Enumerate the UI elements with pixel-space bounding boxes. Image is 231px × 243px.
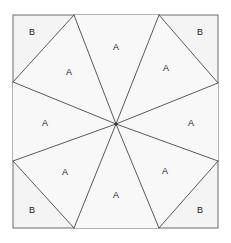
- geometry-diagram-svg: A A A A A A A A B B B B: [0, 0, 231, 243]
- center-point-marker: [114, 122, 117, 125]
- figure-container: A A A A A A A A B B B B: [0, 0, 231, 243]
- label-b-bottom-left: B: [29, 205, 35, 215]
- label-a-lower-left: A: [62, 167, 68, 177]
- label-a-upper-left: A: [66, 67, 72, 77]
- label-a-bottom: A: [113, 190, 119, 200]
- label-a-top: A: [113, 42, 119, 52]
- label-a-right: A: [188, 118, 194, 128]
- label-a-left: A: [42, 118, 48, 128]
- label-b-top-left: B: [29, 27, 35, 37]
- label-a-lower-right: A: [162, 166, 168, 176]
- label-b-bottom-right: B: [197, 205, 203, 215]
- label-b-top-right: B: [197, 27, 203, 37]
- label-a-upper-right: A: [163, 63, 169, 73]
